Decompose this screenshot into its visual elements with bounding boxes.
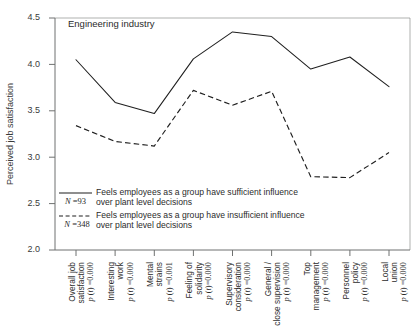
x-label-1-line-3: p (t) =0.000 — [86, 262, 95, 303]
legend-label-dashed-line1: Feels employees as a group have insuffic… — [96, 210, 305, 220]
series-line-sufficient-influence — [76, 32, 389, 114]
legend-n-dashed: N =348 — [63, 219, 89, 229]
legend-label-solid-line1: Feels employees as a group have sufficie… — [96, 187, 298, 197]
chart-figure: Perceived job satisfaction 2.0 2.5 3.0 3… — [0, 0, 414, 334]
x-label-3-line-3: p (t) =0.001 — [165, 262, 174, 303]
x-label-6-line-2: close supervision — [272, 262, 282, 326]
legend: N =93 Feels employees as a group have su… — [59, 187, 305, 230]
plot-title: Engineering industry — [68, 18, 155, 29]
x-label-9-line-2: union — [389, 262, 399, 283]
x-label-8-line-2: policy — [350, 261, 360, 283]
x-label-5-line-2: consideration — [233, 262, 243, 312]
x-label-8-line-3: p (t) =0.000 — [360, 262, 369, 303]
y-tick-label-4-5: 4.5 — [27, 12, 40, 22]
y-tick-label-3-5: 3.5 — [27, 105, 40, 115]
y-axis-title: Perceived job satisfaction — [5, 83, 15, 185]
x-label-5-line-3: p (t) =0.000 — [243, 262, 252, 303]
x-label-9-line-3: p (t) =0.000 — [399, 262, 408, 303]
x-axis-category-labels: Overall jobsatisfactionp (t) =0.000Inter… — [67, 261, 408, 325]
x-label-6-line-3: p (t) =0.000 — [282, 262, 291, 303]
x-label-4-line-3: p (t)=0.000 — [204, 262, 213, 300]
x-label-7-line-2: management — [311, 261, 321, 310]
line-chart-svg: Perceived job satisfaction 2.0 2.5 3.0 3… — [0, 0, 414, 334]
y-tick-label-4-0: 4.0 — [27, 59, 40, 69]
x-label-2-line-3: p (t) =0.000 — [126, 262, 135, 303]
x-label-3-line-2: strains — [154, 262, 164, 286]
x-label-2-line-2: work — [115, 261, 125, 280]
x-tick-marks — [76, 250, 389, 256]
legend-n-solid: N =93 — [64, 196, 86, 206]
y-tick-label-2-0: 2.0 — [27, 244, 40, 254]
y-tick-marks — [49, 18, 55, 250]
y-tick-label-2-5: 2.5 — [27, 198, 40, 208]
series-line-insufficient-influence — [76, 90, 389, 177]
legend-label-solid-line2: over plant level decisions — [96, 197, 192, 207]
x-label-4-line-2: solidarity — [194, 261, 204, 295]
x-label-7-line-3: p (t) =0.000 — [321, 262, 330, 303]
x-label-1-line-2: satisfaction — [76, 262, 86, 304]
legend-label-dashed-line2: over plant level decisions — [96, 220, 192, 230]
y-tick-label-3-0: 3.0 — [27, 152, 40, 162]
